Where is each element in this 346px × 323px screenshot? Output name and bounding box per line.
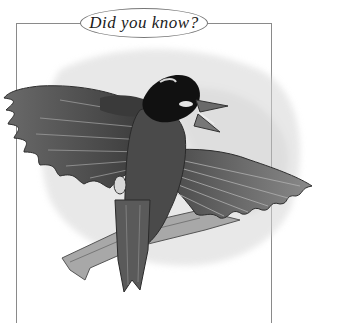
did-you-know-badge: Did you know? [80,8,208,38]
callout-title: Did you know? [89,13,198,33]
